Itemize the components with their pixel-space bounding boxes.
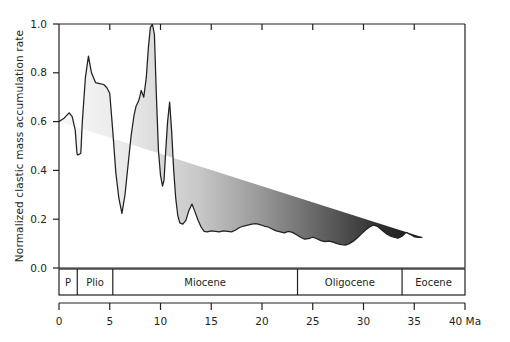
- y-tick-label: 1.0: [30, 18, 47, 30]
- epoch-label-plio: Plio: [86, 277, 104, 288]
- chart-figure: 0.00.20.40.60.81.0 0510152025303540 Ma P…: [0, 0, 510, 342]
- x-tick-label: 40 Ma: [449, 315, 481, 327]
- x-tick-label: 10: [154, 315, 167, 327]
- x-tick-label: 15: [205, 315, 218, 327]
- epoch-label-eocene: Eocene: [415, 277, 452, 288]
- y-tick-label: 0.6: [30, 115, 47, 127]
- y-axis-title: Normalized clastic mass accumulation rat…: [13, 30, 25, 262]
- epoch-band: PPlioMioceneOligoceneEocene: [59, 269, 465, 295]
- clastic-mass-accumulation-chart: 0.00.20.40.60.81.0 0510152025303540 Ma P…: [0, 0, 510, 342]
- x-tick-label: 25: [306, 315, 319, 327]
- x-tick-label: 5: [106, 315, 113, 327]
- epoch-label-p: P: [65, 277, 71, 288]
- y-tick-label: 0.2: [30, 213, 47, 225]
- x-tick-label: 20: [255, 315, 268, 327]
- epoch-label-oligocene: Oligocene: [325, 277, 375, 288]
- y-tick-label: 0.4: [30, 164, 47, 176]
- epoch-label-miocene: Miocene: [184, 277, 226, 288]
- y-tick-label: 0.0: [30, 262, 47, 274]
- x-tick-label: 0: [56, 315, 63, 327]
- y-tick-label: 0.8: [30, 66, 47, 78]
- x-tick-label: 30: [357, 315, 370, 327]
- x-tick-label: 35: [408, 315, 421, 327]
- epoch-band-outline: [59, 269, 465, 295]
